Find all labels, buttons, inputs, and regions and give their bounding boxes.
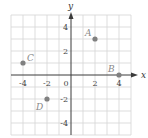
point-a-label: A <box>84 28 92 38</box>
point-b <box>116 72 121 77</box>
x-axis-arrow-icon <box>131 73 138 78</box>
point-d-label: D <box>35 102 43 112</box>
y-tick-label: -4 <box>60 119 68 128</box>
y-tick-label: -2 <box>60 95 68 104</box>
y-axis-label: y <box>67 1 74 11</box>
x-tick-label: -4 <box>19 79 27 88</box>
x-tick-label: -2 <box>43 79 51 88</box>
x-tick-label: 4 <box>116 79 121 88</box>
x-axis-label: x <box>141 70 146 80</box>
x-tick-label: 2 <box>92 79 97 88</box>
coordinate-plane: x y -4 -2 0 2 4 4 2 -2 -4 A B C D <box>0 0 148 138</box>
y-axis-arrow-icon <box>69 12 74 19</box>
point-b-label: B <box>107 64 115 74</box>
x-tick-label: 0 <box>63 79 68 88</box>
point-a <box>92 36 97 41</box>
point-c <box>20 60 25 65</box>
y-tick-label: 2 <box>63 47 68 56</box>
point-d <box>44 96 49 101</box>
y-tick-label: 4 <box>63 23 68 32</box>
point-c-label: C <box>27 53 34 63</box>
